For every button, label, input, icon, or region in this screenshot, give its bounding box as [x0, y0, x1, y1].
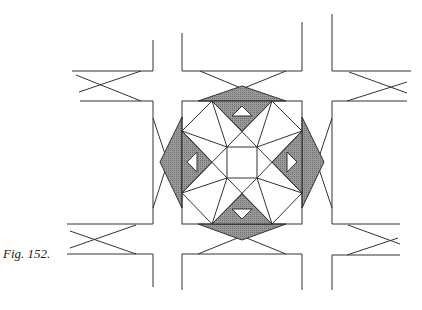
figure-152-diagram — [0, 0, 422, 310]
figure-caption: Fig. 152. — [3, 246, 50, 262]
corridor-outlines — [67, 14, 411, 290]
shaded-inner-triangles — [182, 101, 302, 224]
inner-square — [227, 147, 257, 178]
